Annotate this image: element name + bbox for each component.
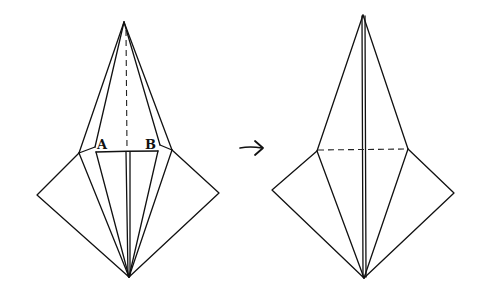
upper-right-edge — [363, 15, 408, 149]
inner-left-flap — [95, 22, 124, 147]
lower-right-inner — [364, 149, 408, 278]
horizontal-fold-line — [318, 149, 408, 150]
lower-right-outer — [364, 149, 454, 278]
outer-right-edge — [124, 22, 172, 150]
vertical-fold-line — [126, 30, 127, 150]
lower-right-inner-2 — [129, 150, 172, 277]
outer-left-edge — [79, 22, 124, 153]
lower-left-outer — [37, 153, 129, 277]
upper-left-edge — [317, 15, 363, 151]
figure-after — [272, 15, 454, 278]
inner-right-flap — [124, 22, 160, 145]
center-line-left — [126, 152, 128, 276]
lower-left-inner — [317, 151, 364, 278]
lower-left-outer — [272, 151, 364, 278]
lower-left-inner-1 — [79, 153, 129, 277]
arrow-icon — [240, 141, 263, 155]
lower-right-outer — [129, 150, 219, 277]
center-line-right — [365, 16, 366, 277]
label-b: B — [145, 137, 156, 152]
center-line-left — [362, 16, 363, 277]
label-a: A — [96, 137, 108, 152]
figure-before: A B — [37, 22, 219, 277]
lower-left-inner-2 — [96, 152, 129, 277]
origami-diagram: A B — [0, 0, 478, 298]
lower-right-inner-1 — [129, 151, 158, 277]
